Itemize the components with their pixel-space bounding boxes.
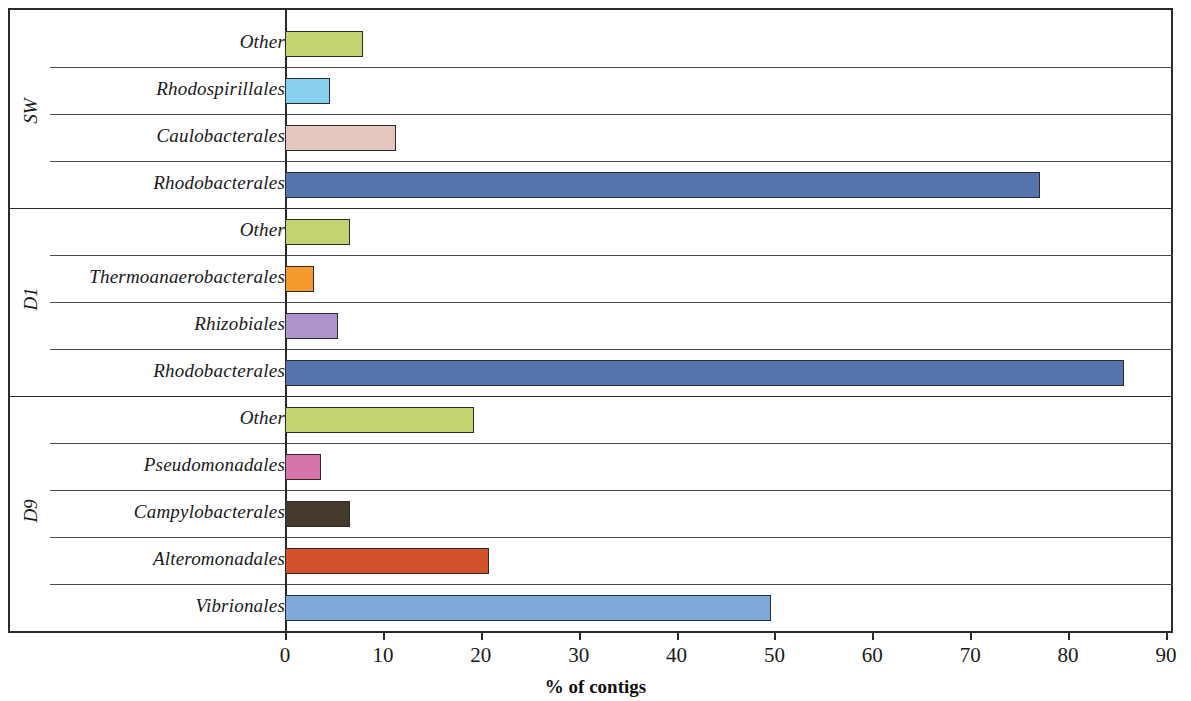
category-label: Vibrionales [196,595,285,617]
group-label: D9 [14,500,48,522]
x-tick-label: 30 [549,643,609,668]
category-label: Thermoanaerobacterales [89,266,285,288]
x-axis-title: % of contigs [0,676,1191,698]
x-tick [285,631,287,640]
category-label: Caulobacterales [156,125,285,147]
x-tick [1068,631,1070,640]
category-label: Rhodobacterales [153,172,285,194]
x-tick [579,631,581,640]
x-tick-label: 70 [940,643,1000,668]
x-tick-label: 60 [842,643,902,668]
x-tick [677,631,679,640]
bar [285,548,489,574]
x-tick-label: 10 [353,643,413,668]
bar [285,407,474,433]
x-tick [481,631,483,640]
bar [285,266,314,292]
bar [285,313,338,339]
category-label: Other [240,219,285,241]
category-label: Pseudomonadales [144,454,285,476]
bar-chart: OtherRhodospirillalesCaulobacteralesRhod… [0,0,1191,701]
group-label: D1 [14,288,48,310]
x-tick [1166,631,1168,640]
category-label: Alteromonadales [153,548,285,570]
bar [285,219,350,245]
category-label: Rhizobiales [194,313,285,335]
bar [285,360,1124,386]
category-label: Campylobacterales [134,501,285,523]
category-label: Rhodospirillales [156,78,285,100]
bar [285,501,350,527]
x-tick-label: 40 [647,643,707,668]
x-tick [872,631,874,640]
bar [285,595,771,621]
group-label: SW [14,100,48,122]
x-tick [383,631,385,640]
x-tick-label: 90 [1136,643,1191,668]
x-tick-label: 20 [451,643,511,668]
category-label: Other [240,407,285,429]
x-tick [970,631,972,640]
bar [285,172,1040,198]
bar [285,454,321,480]
x-axis-line [8,631,1173,633]
x-tick-label: 80 [1038,643,1098,668]
bar [285,78,330,104]
category-label: Rhodobacterales [153,360,285,382]
x-tick-label: 0 [255,643,315,668]
plot-area [285,10,1166,631]
bar [285,31,363,57]
x-tick-label: 50 [744,643,804,668]
category-label: Other [240,31,285,53]
x-tick [774,631,776,640]
bar [285,125,396,151]
